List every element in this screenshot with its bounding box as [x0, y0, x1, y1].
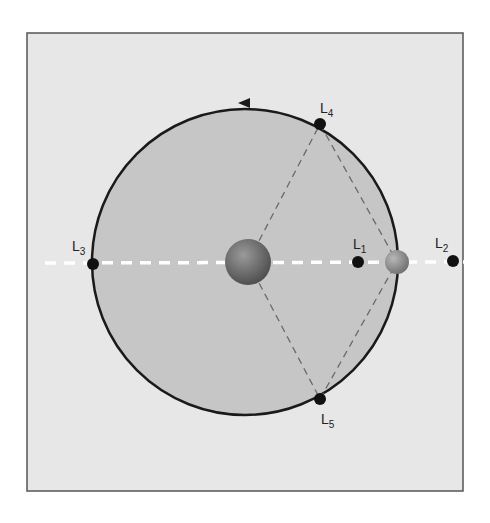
point-marker [314, 118, 326, 130]
point-marker [447, 255, 459, 267]
lagrange-diagram: L1L2L3L4L5 [0, 0, 490, 523]
point-marker [314, 393, 326, 405]
primary-body [225, 239, 271, 285]
point-marker [87, 258, 99, 270]
point-marker [352, 256, 364, 268]
secondary-body [385, 250, 409, 274]
